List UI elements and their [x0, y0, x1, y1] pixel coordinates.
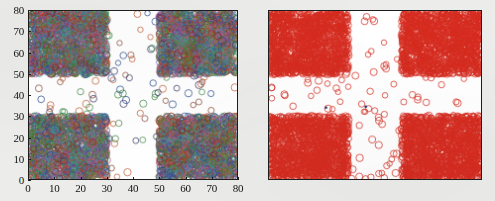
y-tick-label: 30: [2, 111, 24, 121]
x-tick-label: 40: [119, 183, 147, 193]
y-tick-label: 10: [2, 154, 24, 164]
right-plot-area: [268, 10, 482, 180]
y-tick-label: 40: [490, 90, 495, 100]
y-tick-label: 30: [490, 111, 495, 121]
y-tick-label: 20: [490, 133, 495, 143]
y-tick-label: 10: [490, 154, 495, 164]
y-tick-mark: [28, 116, 31, 117]
y-tick-mark: [28, 10, 31, 11]
x-tick-label: 10: [40, 183, 68, 193]
x-tick-label: 50: [145, 183, 173, 193]
x-tick-mark: [186, 177, 187, 180]
x-tick-mark: [133, 177, 134, 180]
x-tick-mark: [238, 177, 239, 180]
y-tick-label: 60: [490, 48, 495, 58]
x-tick-mark: [107, 177, 108, 180]
y-tick-mark: [28, 180, 31, 181]
x-tick-mark: [212, 177, 213, 180]
y-tick-label: 40: [2, 90, 24, 100]
x-tick-label: 30: [93, 183, 121, 193]
right-scatter-canvas: [269, 11, 481, 179]
y-tick-label: 50: [2, 69, 24, 79]
y-tick-label: 60: [2, 48, 24, 58]
y-tick-label: 80: [490, 5, 495, 15]
x-tick-label: 60: [172, 183, 200, 193]
y-tick-label: 70: [2, 26, 24, 36]
left-scatter-canvas: [29, 11, 237, 179]
y-tick-mark: [28, 159, 31, 160]
y-tick-label: 80: [2, 5, 24, 15]
x-tick-mark: [159, 177, 160, 180]
y-tick-label: 50: [490, 69, 495, 79]
figure-root: 01020304050607080 01020304050607080 0102…: [0, 0, 495, 201]
y-tick-mark: [28, 74, 31, 75]
x-tick-label: 0: [14, 183, 42, 193]
x-tick-mark: [54, 177, 55, 180]
y-tick-mark: [28, 31, 31, 32]
x-tick-mark: [28, 177, 29, 180]
y-tick-mark: [28, 95, 31, 96]
y-tick-label: 0: [490, 175, 495, 185]
y-tick-mark: [28, 53, 31, 54]
left-plot-area: [28, 10, 238, 180]
right-scatter-panel: 01020304050607080: [248, 0, 495, 201]
x-tick-label: 70: [198, 183, 226, 193]
left-scatter-panel: 01020304050607080 01020304050607080: [0, 0, 248, 201]
x-tick-mark: [81, 177, 82, 180]
y-tick-label: 70: [490, 26, 495, 36]
x-tick-label: 20: [67, 183, 95, 193]
y-tick-label: 20: [2, 133, 24, 143]
y-tick-mark: [28, 138, 31, 139]
